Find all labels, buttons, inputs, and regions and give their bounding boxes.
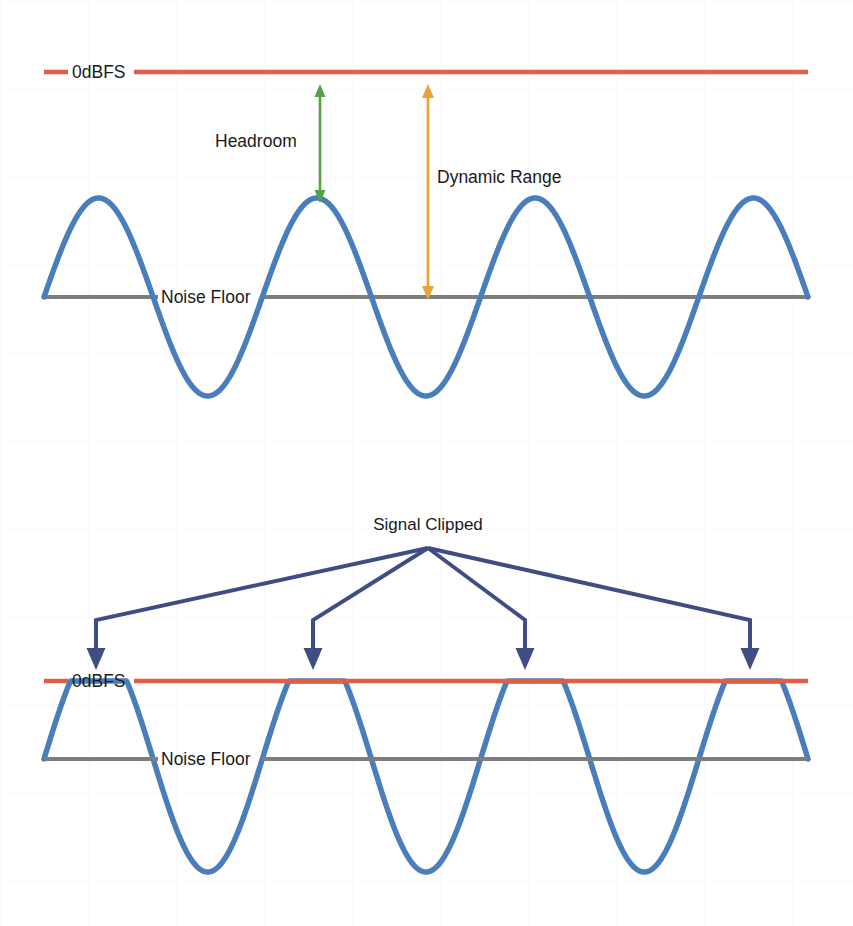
noise-floor-label: Noise Floor	[161, 287, 251, 307]
diagram-canvas: 0dBFS Noise Floor Headroom Dynamic Range	[0, 0, 853, 926]
audio-levels-diagram: 0dBFS Noise Floor Headroom Dynamic Range	[0, 0, 853, 926]
headroom-label: Headroom	[215, 131, 297, 151]
dynamic-range-label: Dynamic Range	[437, 167, 562, 187]
zero-dbfs-label: 0dBFS	[72, 62, 126, 82]
signal-clipped-label: Signal Clipped	[373, 515, 483, 534]
faint-grid	[0, 0, 853, 926]
noise-floor-label-clipped: Noise Floor	[161, 749, 251, 769]
zero-dbfs-label-clipped: 0dBFS	[72, 671, 126, 691]
